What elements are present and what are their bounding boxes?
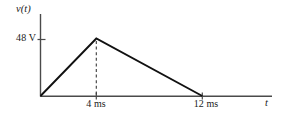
x-axis-title: t (265, 98, 268, 109)
y-axis-title: v(t) (16, 4, 31, 15)
waveform-figure: v(t) 48 V 4 ms 12 ms t (0, 0, 287, 124)
voltage-waveform-curve (41, 39, 203, 97)
y-tick-label-48v: 48 V (0, 33, 36, 43)
plot-canvas (0, 0, 287, 124)
x-tick-label-12ms: 12 ms (186, 99, 226, 109)
x-tick-label-4ms: 4 ms (76, 99, 116, 109)
